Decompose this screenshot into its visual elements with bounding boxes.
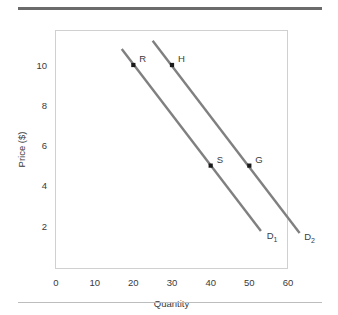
data-point-g	[247, 164, 251, 168]
chart-svg: 0102030405060246810QuantityPrice ($)D1D2…	[0, 22, 338, 302]
x-tick-label: 20	[128, 277, 139, 288]
data-point-label-g: G	[255, 154, 262, 165]
data-point-label-h: H	[178, 53, 185, 64]
curve-label-d2: D2	[304, 231, 315, 244]
y-tick-label: 8	[42, 100, 47, 111]
data-point-label-s: S	[217, 154, 223, 165]
x-tick-label: 50	[244, 277, 255, 288]
data-point-s	[209, 164, 213, 168]
bottom-divider-rule	[18, 302, 322, 303]
demand-curve-d1	[122, 49, 261, 231]
x-tick-label: 60	[283, 277, 294, 288]
data-point-h	[170, 63, 174, 67]
x-axis-title: Quantity	[154, 298, 190, 309]
top-divider-rule	[18, 7, 322, 10]
x-tick-label: 30	[167, 277, 178, 288]
x-tick-label: 10	[89, 277, 100, 288]
y-axis-title: Price ($)	[16, 132, 27, 168]
x-tick-label: 40	[205, 277, 216, 288]
chart-page: 0102030405060246810QuantityPrice ($)D1D2…	[0, 0, 338, 315]
y-tick-label: 2	[42, 221, 47, 232]
y-tick-label: 4	[42, 180, 47, 191]
x-tick-label: 0	[53, 277, 58, 288]
curve-label-d1: D1	[267, 230, 278, 243]
y-tick-label: 10	[36, 60, 47, 71]
economics-demand-chart: 0102030405060246810QuantityPrice ($)D1D2…	[0, 22, 338, 302]
y-tick-label: 6	[42, 140, 47, 151]
data-point-label-r: R	[139, 53, 146, 64]
data-point-r	[131, 63, 135, 67]
demand-curve-d2	[153, 41, 300, 233]
